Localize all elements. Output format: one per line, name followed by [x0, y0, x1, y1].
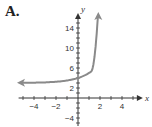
y-tick-label: 14: [65, 24, 74, 33]
y-tick-label: 2: [70, 84, 75, 93]
exponential-curve: [23, 18, 98, 83]
ticks: −4−224141062−4: [23, 23, 133, 123]
y-axis-label: y: [80, 4, 85, 14]
x-axis-arrow-icon: [137, 95, 143, 101]
y-tick-label: −4: [65, 114, 75, 123]
y-tick-label: 10: [65, 44, 74, 53]
x-axis-label: x: [144, 93, 149, 103]
x-tick-label: −2: [51, 102, 61, 111]
curve-arrows: [17, 12, 102, 87]
x-tick-label: 4: [120, 102, 125, 111]
chart: xy −4−224141062−4: [0, 0, 152, 127]
x-tick-label: 2: [98, 102, 103, 111]
x-tick-label: −4: [29, 102, 39, 111]
y-tick-label: 6: [70, 64, 75, 73]
